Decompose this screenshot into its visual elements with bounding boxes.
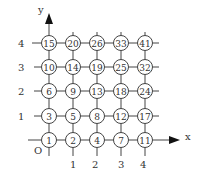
x-tick-label: 4 (140, 159, 146, 170)
x-tick-label: 3 (118, 159, 124, 170)
node-value: 15 (43, 39, 55, 49)
node-value: 11 (139, 136, 150, 146)
x-axis-arrow-icon (169, 136, 180, 144)
node-value: 5 (70, 112, 76, 122)
node-value: 10 (43, 63, 55, 73)
node-value: 2 (70, 136, 76, 146)
node-value: 33 (115, 39, 127, 49)
node-value: 41 (139, 39, 150, 49)
node-value: 12 (115, 112, 126, 122)
y-tick-label: 4 (18, 38, 24, 49)
node-value: 20 (67, 39, 79, 49)
y-axis-label: y (37, 4, 44, 15)
node-value: 3 (46, 112, 52, 122)
node-value: 6 (46, 87, 52, 97)
y-tick-label: 1 (18, 111, 24, 122)
node-value: 14 (67, 63, 79, 73)
node-value: 18 (115, 87, 127, 97)
node-value: 1 (46, 136, 52, 146)
node-value: 9 (70, 87, 76, 97)
x-axis-label: x (185, 131, 191, 142)
lattice-diagram: y x O 4 3 2 1 1 2 3 4 15 20 26 33 41 10 … (0, 0, 198, 173)
x-tick-label: 1 (70, 159, 76, 170)
node-value: 8 (94, 112, 100, 122)
y-axis-arrow-icon (45, 13, 53, 24)
x-tick-label: 2 (92, 159, 98, 170)
node-value: 24 (139, 87, 151, 97)
y-tick-label: 2 (18, 86, 24, 97)
node-value: 19 (91, 63, 103, 73)
y-tick-label: 3 (18, 62, 24, 73)
node-value: 32 (139, 63, 150, 73)
node-value: 26 (91, 39, 103, 49)
node-value: 25 (115, 63, 127, 73)
origin-label: O (34, 145, 42, 156)
node-value: 17 (139, 112, 151, 122)
node-value: 13 (91, 87, 103, 97)
node-value: 7 (118, 136, 124, 146)
node-value: 4 (94, 136, 100, 146)
